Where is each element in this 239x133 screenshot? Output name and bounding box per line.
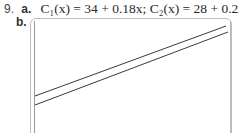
series-c2-line: [35, 32, 228, 105]
cost-lines-graph: [0, 0, 239, 133]
series-c1-line: [35, 26, 226, 96]
